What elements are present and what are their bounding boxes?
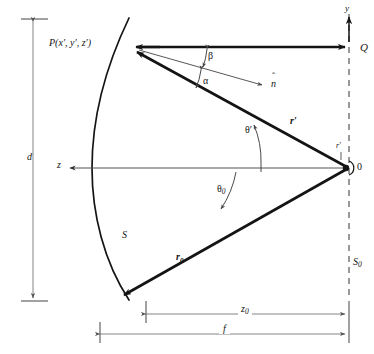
focus-point-arc xyxy=(349,161,354,175)
z0-subscript: 0 xyxy=(245,307,249,316)
y-axis-label: y xyxy=(345,4,349,13)
figure-canvas: P(x′, y′, z′) Q 0 y z S β α ˆ n r′ r0 θ′… xyxy=(0,0,374,354)
z-axis-label: z xyxy=(57,160,61,170)
vector-r0-o-to-rim xyxy=(124,170,345,295)
dimension-d-label: d xyxy=(27,152,32,162)
s0-subscript: 0 xyxy=(358,260,362,269)
angle-theta0-label: θ0 xyxy=(217,184,226,196)
theta0-subscript: 0 xyxy=(222,187,226,196)
dimension-z0-label: z0 xyxy=(238,304,252,316)
dimension-f-label: f xyxy=(219,324,230,334)
diagram-vector-layer xyxy=(0,0,374,354)
angle-theta-prime-label: θ′ xyxy=(245,125,252,135)
focus-point-marker xyxy=(343,165,349,171)
surface-s-label: S xyxy=(122,230,127,240)
angle-beta-arc xyxy=(203,49,207,67)
angle-theta-prime-arc xyxy=(254,125,261,163)
focus-r-prime-small-label: r′ xyxy=(336,142,341,150)
point-p-label: P(x′, y′, z′) xyxy=(49,38,91,48)
unit-normal-hat-accent: ˆ xyxy=(272,72,275,81)
vector-r-prime-o-to-p xyxy=(137,52,345,166)
unit-normal-line xyxy=(139,50,262,85)
vector-r-prime-label: r′ xyxy=(290,116,297,126)
parabolic-surface-curve xyxy=(92,18,129,300)
vector-r0-label: r0 xyxy=(176,252,183,264)
point-q-label: Q xyxy=(360,42,368,53)
aperture-plane-s0-label: S0 xyxy=(353,257,362,269)
angle-beta-label: β xyxy=(208,51,213,61)
unit-normal-label: ˆ n xyxy=(271,79,276,89)
vector-r0-subscript: 0 xyxy=(180,256,184,264)
origin-o-label: 0 xyxy=(357,162,362,172)
angle-alpha-label: α xyxy=(203,76,208,86)
